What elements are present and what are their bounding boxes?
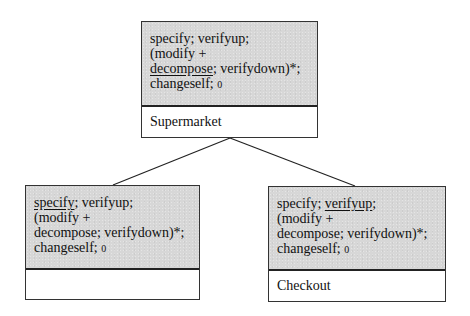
node-name: Checkout — [269, 271, 445, 301]
behavior-compartment: specify; verifyup;(modify +decompose; ve… — [269, 187, 445, 271]
behavior-line: changeself; 0 — [150, 76, 309, 92]
step-text: specify; — [277, 196, 325, 211]
behavior-compartment: specify; verifyup;(modify +decompose; ve… — [26, 186, 199, 270]
highlighted-step: verifyup — [325, 196, 372, 211]
behavior-line: decompose; verifydown)*; — [277, 226, 437, 241]
step-text: ; verifydown)*; — [213, 61, 300, 76]
behavior-line: specify; verifyup; — [150, 31, 309, 46]
step-text: 0 — [101, 243, 106, 254]
step-text: decompose; verifydown)*; — [34, 225, 184, 240]
step-text: changeself; — [34, 240, 101, 255]
behavior-line: (modify + — [277, 211, 437, 226]
node-supermarket: specify; verifyup;(modify +decompose; ve… — [141, 21, 318, 138]
step-text: ; verifyup; — [74, 195, 133, 210]
step-text: changeself; — [150, 76, 217, 91]
step-text: changeself; — [277, 241, 344, 256]
node-checkout: specify; verifyup;(modify +decompose; ve… — [268, 186, 446, 302]
step-text: 0 — [217, 79, 222, 90]
node-left-child: specify; verifyup;(modify +decompose; ve… — [25, 185, 200, 300]
step-text: (modify + — [150, 46, 207, 61]
behavior-line: decompose; verifydown)*; — [150, 61, 309, 76]
step-text: (modify + — [34, 210, 91, 225]
behavior-line: changeself; 0 — [34, 240, 191, 256]
step-text: specify; verifyup; — [150, 31, 249, 46]
step-text: ; — [372, 196, 376, 211]
step-text: decompose; verifydown)*; — [277, 226, 427, 241]
behavior-line: changeself; 0 — [277, 241, 437, 257]
edge-top-to-right — [230, 138, 355, 186]
step-text: (modify + — [277, 211, 334, 226]
behavior-line: (modify + — [34, 210, 191, 225]
highlighted-step: decompose — [150, 61, 213, 76]
node-name: Supermarket — [142, 107, 317, 137]
behavior-line: decompose; verifydown)*; — [34, 225, 191, 240]
behavior-line: (modify + — [150, 46, 309, 61]
node-name — [26, 270, 199, 299]
edge-top-to-left — [113, 138, 230, 185]
behavior-line: specify; verifyup; — [34, 195, 191, 210]
behavior-line: specify; verifyup; — [277, 196, 437, 211]
step-text: 0 — [344, 244, 349, 255]
behavior-compartment: specify; verifyup;(modify +decompose; ve… — [142, 22, 317, 107]
highlighted-step: specify — [34, 195, 74, 210]
